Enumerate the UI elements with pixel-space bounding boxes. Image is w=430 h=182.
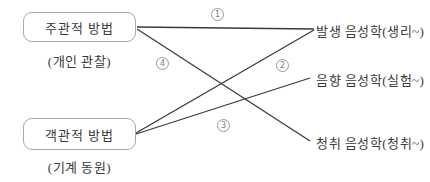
node-subjective-label: 주관적 방법 xyxy=(45,18,114,37)
node-subjective-caption: (개인 관찰) xyxy=(23,51,136,70)
edge-subjective-to-generative xyxy=(137,27,314,29)
circled-number-3: 3 xyxy=(217,119,230,132)
matching-diagram: 주관적 방법 (개인 관찰) 객관적 방법 (기계 동원) 발생 음성학(생리~… xyxy=(0,0,430,182)
circled-number-4: 4 xyxy=(156,57,169,70)
label-auditory-phonetics: 청취 음성학(청취~) xyxy=(316,133,424,152)
node-objective-caption: (기계 동원) xyxy=(23,157,136,176)
label-acoustic-phonetics: 음향 음성학(실험~) xyxy=(316,70,424,89)
label-generative-phonetics: 발생 음성학(생리~) xyxy=(316,21,424,40)
circled-number-1: 1 xyxy=(211,8,224,21)
node-subjective-method: 주관적 방법 xyxy=(23,12,136,42)
circled-number-2: 2 xyxy=(276,59,289,72)
node-objective-label: 객관적 방법 xyxy=(45,125,114,144)
node-objective-method: 객관적 방법 xyxy=(23,118,136,150)
